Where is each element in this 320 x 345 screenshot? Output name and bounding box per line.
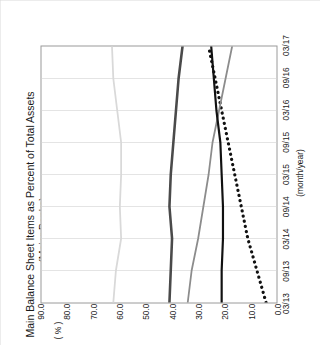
figure-page: Main Balance Sheet Items as Percent of T… — [0, 0, 320, 345]
x-axis-unit-label: (month/year) — [294, 0, 304, 345]
series-line — [187, 46, 231, 302]
plot-svg — [41, 46, 276, 302]
chart-figure: Main Balance Sheet Items as Percent of T… — [0, 0, 320, 345]
series-line — [211, 46, 223, 302]
chart-title-line1: Main Balance Sheet Items as Percent of T… — [23, 91, 35, 337]
y-axis-tick-label: 10.0 — [246, 303, 256, 343]
series-line — [112, 46, 121, 302]
y-axis-unit-label: ( % ) — [52, 321, 62, 339]
y-axis-tick-label: 80.0 — [61, 303, 71, 343]
y-axis-tick-label: 20.0 — [219, 303, 229, 343]
y-axis-tick-label: 60.0 — [114, 303, 124, 343]
y-axis-tick-label: 70.0 — [88, 303, 98, 343]
series-line — [169, 46, 182, 302]
y-axis-tick-label: 50.0 — [140, 303, 150, 343]
series-line — [208, 46, 265, 302]
rotated-figure-container: Main Balance Sheet Items as Percent of T… — [0, 0, 320, 345]
y-axis-tick-label: 40.0 — [167, 303, 177, 343]
plot-area — [40, 45, 277, 303]
x-axis-tick-label: 03/17 — [280, 25, 290, 65]
y-axis-tick-label: 90.0 — [35, 303, 45, 343]
y-axis-tick-label: 30.0 — [193, 303, 203, 343]
